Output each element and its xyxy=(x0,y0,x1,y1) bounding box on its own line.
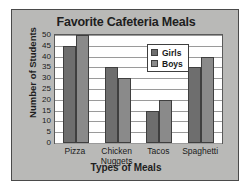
bar-boys-spaghetti xyxy=(201,57,214,143)
bar-girls-tacos xyxy=(146,111,159,143)
y-tick-label: 45 xyxy=(31,42,51,50)
chart-legend: Girls Boys xyxy=(147,44,189,72)
legend-swatch-boys-icon xyxy=(151,60,158,67)
legend-label-boys: Boys xyxy=(162,59,183,69)
bar-group xyxy=(105,35,131,143)
x-tick-label: Pizza xyxy=(54,146,96,156)
y-tick-label: 20 xyxy=(31,96,51,104)
y-tick-label: 10 xyxy=(31,117,51,125)
legend-swatch-girls-icon xyxy=(151,49,158,56)
x-tick-label-line: Tacos xyxy=(138,146,180,156)
bar-girls-chicken-nuggets xyxy=(105,67,118,143)
y-axis-tick-labels: 50454035302520151050 xyxy=(31,34,51,144)
chart-figure: Favorite Cafeteria Meals Number of Stude… xyxy=(0,0,251,191)
x-tick-label: Spaghetti xyxy=(179,146,221,156)
x-tick-label-line: Spaghetti xyxy=(179,146,221,156)
bar-group xyxy=(188,35,214,143)
x-tick-label-line: Chicken xyxy=(96,146,138,156)
bar-boys-tacos xyxy=(159,100,172,143)
y-tick-label: 30 xyxy=(31,74,51,82)
bar-girls-pizza xyxy=(63,46,76,143)
chart-panel: Favorite Cafeteria Meals Number of Stude… xyxy=(11,9,239,181)
bars-layer xyxy=(55,35,222,143)
plot-area: Girls Boys xyxy=(54,34,223,144)
x-tick-label-line: Pizza xyxy=(54,146,96,156)
y-tick-label: 40 xyxy=(31,53,51,61)
y-tick-label: 5 xyxy=(31,128,51,136)
chart-title: Favorite Cafeteria Meals xyxy=(12,15,240,29)
bar-boys-chicken-nuggets xyxy=(118,78,131,143)
y-tick-label: 25 xyxy=(31,85,51,93)
bar-group xyxy=(63,35,89,143)
x-axis-title: Types of Meals xyxy=(12,162,240,173)
y-tick-label: 0 xyxy=(31,139,51,147)
legend-item-boys: Boys xyxy=(151,58,183,69)
y-tick-label: 50 xyxy=(31,31,51,39)
y-tick-label: 35 xyxy=(31,63,51,71)
bar-girls-spaghetti xyxy=(188,67,201,143)
x-tick-label: Tacos xyxy=(138,146,180,156)
legend-item-girls: Girls xyxy=(151,47,183,58)
legend-label-girls: Girls xyxy=(162,48,181,58)
gridline xyxy=(55,143,222,144)
y-tick-label: 15 xyxy=(31,107,51,115)
bar-boys-pizza xyxy=(76,35,89,143)
